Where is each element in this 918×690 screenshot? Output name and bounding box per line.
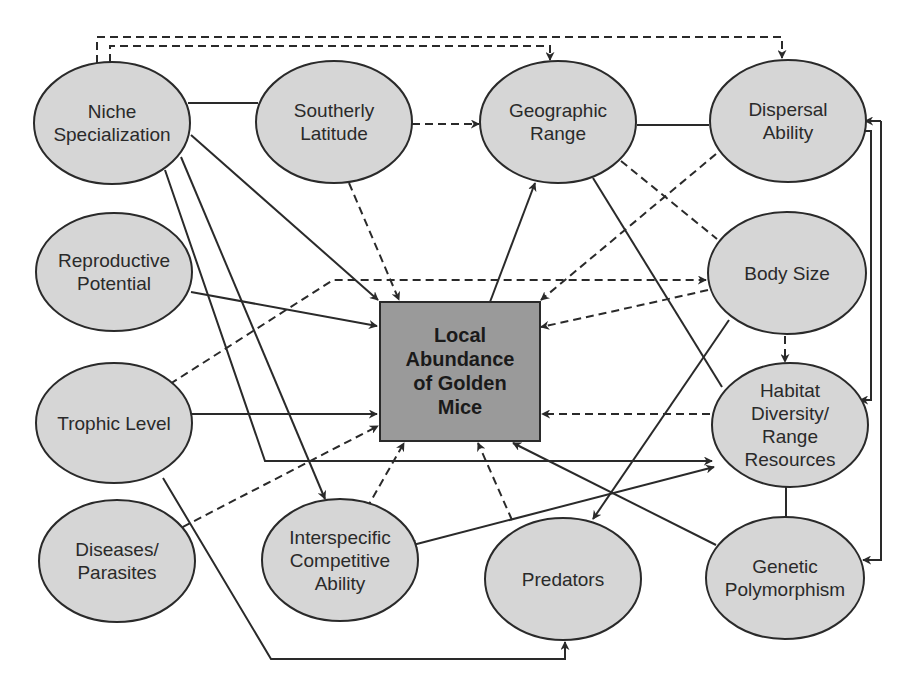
label-local-abundance: Local Abundance of Golden Mice xyxy=(406,323,515,419)
label-habitat-diversity: Habitat Diversity/ Range Resources xyxy=(745,379,836,471)
edge-bodysize-to-center xyxy=(541,290,708,327)
edge-niche-to-dispersal xyxy=(97,37,782,63)
label-southerly-latitude: Southerly Latitude xyxy=(294,99,374,145)
label-genetic-polymorphism: Genetic Polymorphism xyxy=(725,555,845,601)
edge-predators-to-center xyxy=(478,443,512,520)
label-interspecific-competitive-ability: Interspecific Competitive Ability xyxy=(289,526,390,595)
edge-southerly-to-center xyxy=(349,183,399,300)
label-body-size: Body Size xyxy=(744,262,830,285)
edge-center-to-geographic xyxy=(490,183,535,302)
edge-niche-to-geographic xyxy=(110,46,550,62)
label-dispersal-ability: Dispersal Ability xyxy=(748,98,827,144)
edge-geographic-bodysize xyxy=(621,161,717,239)
edge-niche-to-interspecific xyxy=(181,157,325,499)
label-reproductive-potential: Reproductive Potential xyxy=(58,249,170,295)
label-predators: Predators xyxy=(522,568,604,591)
label-geographic-range: Geographic Range xyxy=(509,99,607,145)
edge-bodysize-to-predators xyxy=(593,320,729,519)
edge-reproductive-to-center xyxy=(191,292,377,326)
edge-geographic-habitat xyxy=(593,178,722,387)
label-niche-specialization: Niche Specialization xyxy=(53,100,170,146)
label-diseases-parasites: Diseases/ Parasites xyxy=(75,538,158,584)
label-trophic-level: Trophic Level xyxy=(57,412,170,435)
